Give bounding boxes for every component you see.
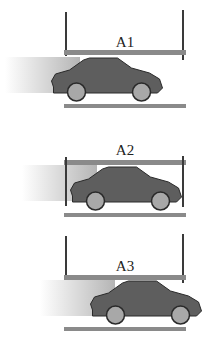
top-bar <box>64 275 186 280</box>
panel-a3: A3 <box>40 234 202 331</box>
panel-a2: A2 <box>22 142 186 217</box>
panel-a1: A1 <box>5 10 186 108</box>
panel-label: A2 <box>116 142 134 158</box>
diagram-canvas: A1 A2 A3 <box>0 0 214 347</box>
panel-label: A3 <box>116 258 134 274</box>
top-bar <box>64 160 186 165</box>
ground-bar <box>64 327 186 331</box>
ground-bar <box>64 213 186 217</box>
panel-label: A1 <box>116 34 134 50</box>
top-bar <box>64 50 186 55</box>
ground-bar <box>64 104 186 108</box>
